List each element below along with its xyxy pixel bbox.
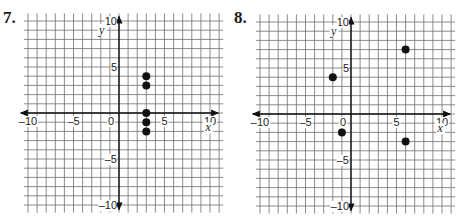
x-tick-label: 5 [393,116,399,128]
data-point [142,81,150,89]
data-point [142,109,150,117]
y-tick-label: –10 [331,200,349,212]
data-point [329,73,337,81]
y-tick-label: 5 [111,61,117,73]
problem-7: 7. –10–50510105–5–10yx [0,0,230,223]
x-axis-label: x [437,121,444,135]
x-tick-label: 5 [161,115,167,127]
x-tick-label: –5 [67,115,79,127]
data-point [402,138,410,146]
y-tick-label: 5 [343,62,349,74]
y-tick-label: –10 [99,199,117,211]
y-tick-label: –5 [105,153,117,165]
x-tick-label: –5 [299,116,311,128]
data-point [142,118,150,126]
x-tick-label: 0 [108,115,114,127]
coordinate-plane-8: –10–50510105–5–10yx [231,0,461,223]
data-point [142,127,150,135]
x-axis-label: x [205,120,212,134]
x-tick-label: 0 [340,116,346,128]
coordinate-plane-7: –10–50510105–5–10yx [0,0,230,223]
data-point [142,72,150,80]
problem-8: 8. –10–50510105–5–10yx [231,0,461,223]
y-tick-label: –5 [337,154,349,166]
data-point [402,46,410,54]
y-axis-label: y [98,23,105,37]
y-axis-label: y [330,24,337,38]
x-tick-label: –10 [251,116,269,128]
x-tick-label: –10 [19,115,37,127]
data-point [338,128,346,136]
